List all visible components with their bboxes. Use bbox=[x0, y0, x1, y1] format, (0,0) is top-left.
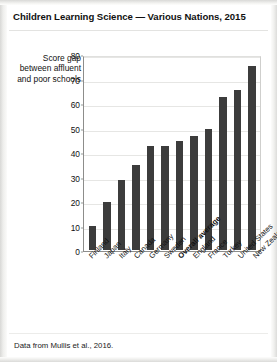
y-tick-mark bbox=[81, 178, 84, 179]
y-tick-label: 40 bbox=[71, 149, 80, 159]
y-tick-label: 80 bbox=[71, 51, 80, 61]
y-tick-label: 60 bbox=[71, 100, 80, 110]
page-edge-left bbox=[0, 0, 7, 362]
y-tick-label: 30 bbox=[71, 174, 80, 184]
y-tick-label: 70 bbox=[71, 76, 80, 86]
bar bbox=[132, 165, 140, 250]
bar bbox=[248, 66, 256, 250]
source-note: Data from Mullis et al., 2016. bbox=[14, 341, 113, 350]
bar bbox=[176, 141, 184, 250]
y-tick-mark bbox=[81, 80, 84, 81]
bar-series bbox=[85, 58, 259, 250]
plot-area-wrapper: 01020304050607080 bbox=[83, 56, 261, 252]
bar-chart: Score gap between affluent and poor scho… bbox=[9, 38, 268, 328]
title-divider bbox=[9, 30, 268, 31]
page-edge-top bbox=[0, 0, 277, 5]
y-tick-mark bbox=[81, 154, 84, 155]
y-tick-label: 10 bbox=[71, 223, 80, 233]
y-tick-mark bbox=[81, 105, 84, 106]
y-tick-mark bbox=[81, 129, 84, 130]
y-tick-label: 50 bbox=[71, 125, 80, 135]
plot-area bbox=[83, 56, 261, 252]
page-edge-right bbox=[271, 0, 277, 362]
figure-title: Children Learning Science — Various Nati… bbox=[13, 11, 269, 23]
y-tick-mark bbox=[81, 56, 84, 57]
y-tick-mark bbox=[81, 252, 84, 253]
y-tick-mark bbox=[81, 203, 84, 204]
page-edge-bottom bbox=[0, 357, 277, 362]
bar bbox=[118, 180, 126, 250]
x-axis-ticks: FinlandJapanItalyCanadaGermanySwedenOver… bbox=[83, 254, 261, 326]
bar bbox=[234, 90, 242, 250]
y-tick-label: 0 bbox=[75, 247, 80, 257]
footnote-divider bbox=[9, 333, 268, 334]
bar bbox=[219, 97, 227, 250]
figure-page: Children Learning Science — Various Nati… bbox=[0, 0, 277, 362]
y-tick-label: 20 bbox=[71, 198, 80, 208]
y-tick-mark bbox=[81, 227, 84, 228]
